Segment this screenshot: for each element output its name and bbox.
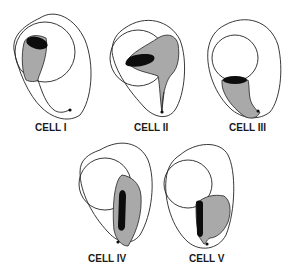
cell-5: CELL V xyxy=(164,144,234,264)
cell-2-tail-dot xyxy=(160,110,163,113)
cell-4-label: CELL IV xyxy=(88,253,126,264)
cell-3-tail-dot xyxy=(257,110,260,113)
cell-4-cytoplasm xyxy=(113,175,141,246)
cell-3-label: CELL III xyxy=(229,122,266,133)
cell-5-label: CELL V xyxy=(189,253,225,264)
cell-2: CELL II xyxy=(110,20,185,133)
cell-3-dark-body xyxy=(223,76,247,84)
cell-3: CELL III xyxy=(208,20,281,133)
cell-4: CELL IV xyxy=(79,143,152,264)
cell-3-vacuole xyxy=(212,35,258,81)
cell-3-cytoplasm xyxy=(222,80,260,118)
cell-diagram: CELL I CELL II CELL III CELL IV CELL V xyxy=(0,0,290,274)
cell-5-dark-body xyxy=(196,201,203,237)
cell-4-dark-body xyxy=(118,190,126,231)
cell-1-tail xyxy=(38,80,69,112)
cell-4-dot xyxy=(116,240,119,243)
cell-1: CELL I xyxy=(14,14,91,133)
cell-1-label: CELL I xyxy=(35,122,67,133)
cell-2-label: CELL II xyxy=(134,122,168,133)
cell-1-tail-dot xyxy=(68,108,71,111)
cell-2-cytoplasm xyxy=(126,35,179,112)
cell-5-dot xyxy=(205,242,208,245)
